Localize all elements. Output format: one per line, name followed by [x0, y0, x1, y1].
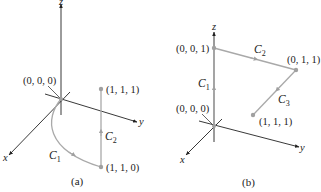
panel-a-x-label: x	[3, 153, 8, 164]
panel-a-curve-label-c1: C1	[49, 150, 61, 164]
panel-a-y-axis	[45, 94, 137, 122]
panel-b-caption: (b)	[242, 177, 255, 188]
panel-b-z-label: z	[212, 22, 216, 33]
panel-b-point-origin	[212, 124, 216, 128]
panel-b-point-label-001: (0, 0, 1)	[176, 44, 209, 55]
panel-b-curve-c3-arrow	[277, 86, 281, 90]
panel-b-point-111	[251, 113, 255, 117]
panel-b-x-label: x	[180, 155, 185, 166]
panel-b-point-label-origin: (0, 0, 0)	[176, 104, 209, 115]
panel-b-y-label: y	[300, 143, 305, 154]
panel-b-point-001	[212, 46, 216, 50]
panel-a-y-label: y	[139, 117, 144, 128]
panel-a-point-label-111: (1, 1, 1)	[106, 85, 139, 96]
panel-a-z-label: z	[59, 0, 63, 8]
panel-b-point-label-111: (1, 1, 1)	[259, 117, 292, 128]
panel-a-point-origin	[59, 97, 63, 101]
panel-a-point-111	[99, 87, 103, 91]
panel-a-point-110	[99, 165, 103, 169]
panel-a-curve-label-c2: C2	[105, 131, 117, 145]
panel-b-curve-label-c2: C2	[254, 44, 266, 58]
panel-b-curve-label-c1: C1	[198, 78, 210, 92]
panel-a-point-label-110: (1, 1, 0)	[106, 163, 139, 174]
panel-b-point-label-011: (0, 1, 1)	[287, 55, 320, 66]
panel-b-curve-label-c3: C3	[278, 94, 290, 108]
panel-a-point-label-origin: (0, 0, 0)	[23, 76, 56, 87]
panel-b-x-axis	[186, 119, 222, 155]
panel-a-caption: (a)	[71, 176, 83, 187]
panel-b-point-011	[294, 68, 298, 72]
panel-b-origin-leader	[202, 114, 214, 126]
